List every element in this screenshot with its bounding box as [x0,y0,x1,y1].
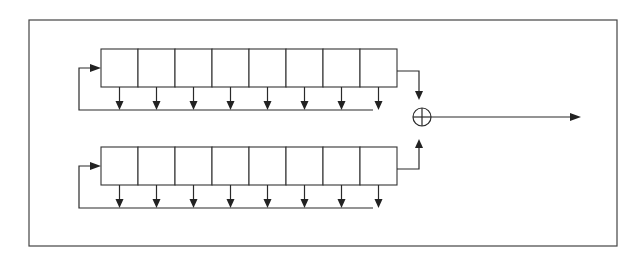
tap-arrow-icon [153,101,161,110]
tap-arrow-icon [227,101,235,110]
lfsr-combiner-diagram [0,0,644,257]
tap-arrow-icon [301,101,309,110]
register-cell [286,49,323,87]
tap-arrow-icon [338,101,346,110]
keystream-output [431,113,581,121]
tap-arrow-icon [116,101,124,110]
feedback-arrow-icon [90,162,101,170]
register-output-line [397,71,419,92]
xor-icon [413,108,431,126]
register-cell [101,49,138,87]
tap-arrow-icon [301,199,309,208]
feedback-arrow-icon [90,64,101,72]
register-1 [79,49,423,110]
output-arrow-up-icon [415,139,423,148]
register-cell [212,49,249,87]
tap-arrow-icon [190,199,198,208]
register-cell [286,147,323,185]
tap-arrow-icon [264,101,272,110]
tap-arrow-icon [338,199,346,208]
register-cell [175,147,212,185]
tap-arrow-icon [375,199,383,208]
register-cell [360,49,397,87]
register-2 [79,139,423,208]
tap-arrow-icon [116,199,124,208]
register-cell [212,147,249,185]
tap-arrow-icon [153,199,161,208]
register-cell [323,147,360,185]
register-cell [360,147,397,185]
register-cell [101,147,138,185]
register-cell [138,147,175,185]
register-cell [175,49,212,87]
output-arrow-down-icon [415,91,423,100]
tap-arrow-icon [190,101,198,110]
register-output-line [397,147,419,169]
output-arrow-right-icon [570,113,581,121]
register-cell [249,147,286,185]
register-cell [323,49,360,87]
tap-arrow-icon [264,199,272,208]
tap-arrow-icon [375,101,383,110]
register-cell [249,49,286,87]
register-cell [138,49,175,87]
tap-arrow-icon [227,199,235,208]
